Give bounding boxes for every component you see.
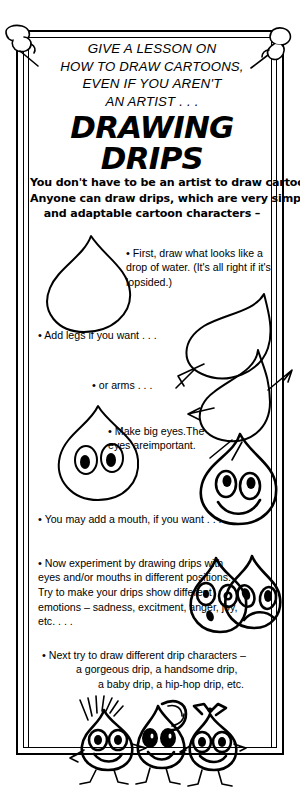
step-bullet: • xyxy=(38,557,42,569)
lede-line-2: Anyone can draw drips, which are very si… xyxy=(30,191,274,207)
lede-paragraph: You don't have to be an artist to draw c… xyxy=(30,175,274,222)
lede-line-1: You don't have to be an artist to draw c… xyxy=(30,175,274,191)
step-first-draw-drop: • First, draw what looks like a drop of … xyxy=(126,246,278,290)
step-line-3: a baby drip, a hip-hop drip, etc. xyxy=(42,677,270,692)
poster-page: GIVE A LESSON ON HOW TO DRAW CARTOONS, E… xyxy=(0,0,300,812)
kicker-line-1: GIVE A LESSON ON xyxy=(36,40,268,58)
pushpin-icon-right xyxy=(243,22,297,76)
poster-frame: GIVE A LESSON ON HOW TO DRAW CARTOONS, E… xyxy=(16,30,284,755)
poster-content: GIVE A LESSON ON HOW TO DRAW CARTOONS, E… xyxy=(30,40,274,745)
kicker-line-3: EVEN IF YOU AREN'T xyxy=(36,75,268,93)
steps-area: • First, draw what looks like a drop of … xyxy=(30,224,274,764)
step-line-3: important. xyxy=(149,439,196,451)
kicker-line-4: AN ARTIST . . . xyxy=(36,93,268,111)
step-text: Add legs if you want . . . xyxy=(44,329,156,341)
baby-drip xyxy=(180,704,246,786)
step-bullet: • xyxy=(92,379,96,391)
step-bullet: • xyxy=(38,329,42,341)
surprised-and-sad-drips xyxy=(186,552,286,638)
step-bullet: • xyxy=(42,649,46,661)
hip-hop-drip xyxy=(70,696,146,784)
step-bullet: • xyxy=(38,513,42,525)
kicker-line-2: HOW TO DRAW CARTOONS, xyxy=(36,58,268,76)
step-line-2: a gorgeous drip, a handsome drip, xyxy=(42,662,270,677)
step-line-1: Next try to draw different drip characte… xyxy=(49,649,246,661)
lede-line-3: and adaptable cartoon characters – xyxy=(30,206,274,222)
page-title: DRAWING DRIPS xyxy=(26,112,277,174)
hip-hop-gorgeous-and-baby-drips xyxy=(76,696,240,782)
pushpin-icon-left xyxy=(0,22,54,76)
plain-drip-outline xyxy=(36,230,148,338)
step-drip-characters: • Next try to draw different drip charac… xyxy=(42,648,270,692)
step-text: or arms . . . xyxy=(99,379,153,391)
drip-with-big-eyes xyxy=(52,402,148,506)
kicker-heading: GIVE A LESSON ON HOW TO DRAW CARTOONS, E… xyxy=(30,40,274,110)
drip-with-smile xyxy=(192,430,284,530)
gorgeous-drip xyxy=(136,701,186,784)
